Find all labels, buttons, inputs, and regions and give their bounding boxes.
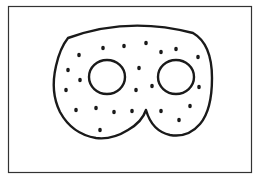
polka-dot <box>134 88 138 93</box>
polka-dot <box>66 68 70 73</box>
polka-dot <box>112 110 116 115</box>
polka-dot <box>197 85 201 90</box>
picture-frame <box>9 7 252 173</box>
polka-dot <box>174 47 178 52</box>
polka-dot <box>159 50 163 55</box>
polka-dot <box>122 44 126 49</box>
polka-dot <box>74 108 78 113</box>
polka-dot <box>64 88 68 93</box>
polka-dot <box>130 109 134 114</box>
illustration-canvas <box>0 0 258 178</box>
polka-dot <box>77 53 81 58</box>
polka-dot <box>150 84 154 89</box>
polka-dot <box>94 106 98 111</box>
polka-dot <box>144 41 148 46</box>
polka-dot <box>137 66 141 71</box>
polka-dot <box>188 104 192 109</box>
mask-drawing <box>0 0 258 178</box>
polka-dot <box>98 128 102 133</box>
polka-dot <box>159 109 163 114</box>
polka-dot <box>101 46 105 51</box>
polka-dot <box>78 78 82 83</box>
polka-dot <box>196 55 200 60</box>
polka-dot <box>177 118 181 123</box>
